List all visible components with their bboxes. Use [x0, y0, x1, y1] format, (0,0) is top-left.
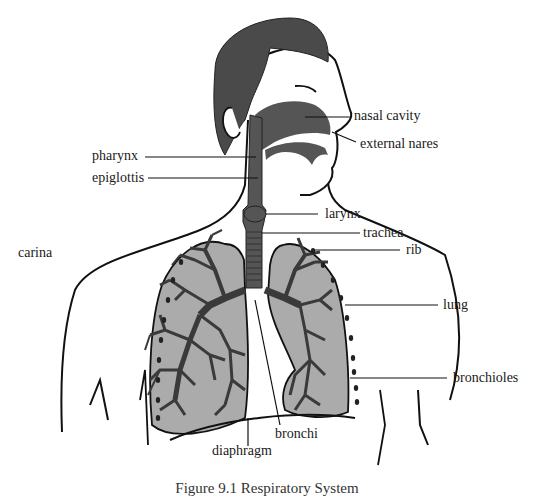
label-trachea: trachea: [363, 226, 403, 240]
label-lung: lung: [443, 298, 468, 312]
label-diaphragm: diaphragm: [212, 444, 272, 458]
label-bronchi: bronchi: [275, 427, 318, 441]
label-bronchioles: bronchioles: [453, 371, 518, 385]
label-external-nares: external nares: [360, 137, 438, 151]
label-rib: rib: [406, 243, 422, 257]
label-epiglottis: epiglottis: [92, 171, 144, 185]
figure-caption: Figure 9.1 Respiratory System: [0, 480, 534, 497]
label-nasal-cavity: nasal cavity: [354, 109, 420, 123]
label-larynx: larynx: [325, 207, 361, 221]
label-pharynx: pharynx: [92, 149, 138, 163]
label-carina: carina: [18, 246, 52, 260]
larynx-shape: [244, 206, 266, 222]
